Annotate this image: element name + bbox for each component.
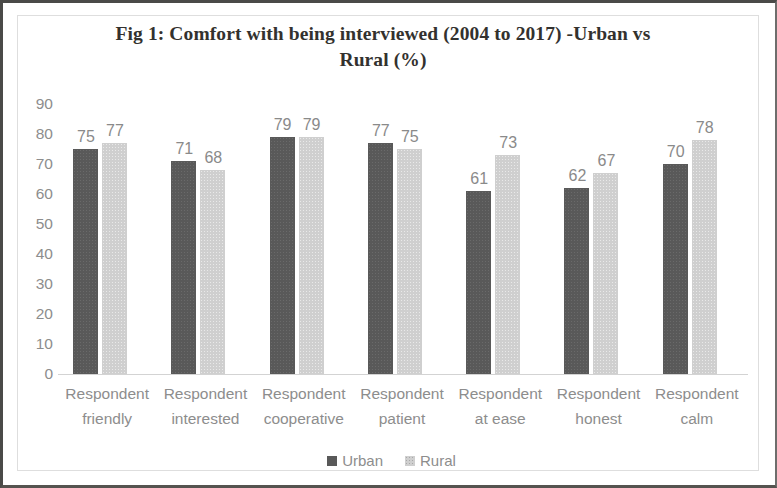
category-label-line-2: friendly — [58, 406, 156, 431]
bar-rural[interactable] — [102, 143, 127, 374]
bar-rural[interactable] — [692, 140, 717, 374]
legend-swatch-rural — [405, 456, 415, 466]
bar-value-label: 61 — [462, 171, 496, 187]
bar-value-label: 70 — [659, 144, 693, 160]
bar-urban[interactable] — [171, 161, 196, 374]
plot-area: 7577716879797775617362677078 — [58, 104, 746, 374]
y-axis-tick-label: 10 — [19, 339, 53, 349]
x-axis-category-label: Respondentfriendly — [58, 381, 156, 431]
bar-urban[interactable] — [368, 143, 393, 374]
y-axis-tick-label: 30 — [19, 279, 53, 289]
chart-title: Fig 1: Comfort with being interviewed (2… — [63, 21, 703, 73]
bar-group: 6267 — [549, 104, 647, 374]
chart-title-line-1: Fig 1: Comfort with being interviewed (2… — [116, 23, 651, 44]
bar-rural[interactable] — [200, 170, 225, 374]
y-axis-tick-label: 40 — [19, 249, 53, 259]
bar-rural[interactable] — [397, 149, 422, 374]
y-axis-tick-label: 60 — [19, 189, 53, 199]
category-label-line-2: patient — [353, 406, 451, 431]
x-axis-category-label: Respondentcooperative — [255, 381, 353, 431]
bar-urban[interactable] — [663, 164, 688, 374]
y-axis-tick-label: 80 — [19, 129, 53, 139]
bar-group: 7168 — [156, 104, 254, 374]
legend-label-rural: Rural — [420, 452, 456, 469]
y-axis-tick-label: 20 — [19, 309, 53, 319]
bar-value-label: 79 — [295, 117, 329, 133]
y-axis-tick-label: 90 — [19, 99, 53, 109]
category-label-line-2: interested — [156, 406, 254, 431]
bar-group: 7979 — [255, 104, 353, 374]
legend-swatch-urban — [327, 456, 337, 466]
bar-urban[interactable] — [270, 137, 295, 374]
legend-label-urban: Urban — [342, 452, 383, 469]
bar-group: 7078 — [648, 104, 746, 374]
category-label-line-1: Respondent — [164, 385, 248, 402]
chart-legend: UrbanRural — [3, 452, 777, 469]
bar-group: 7577 — [58, 104, 156, 374]
bar-value-label: 73 — [491, 135, 525, 151]
x-axis-category-labels: RespondentfriendlyRespondentinterestedRe… — [58, 381, 746, 441]
bar-value-label: 68 — [196, 150, 230, 166]
x-axis-line — [58, 374, 748, 375]
bar-urban[interactable] — [564, 188, 589, 374]
y-axis-tick-label: 50 — [19, 219, 53, 229]
x-axis-category-label: Respondentinterested — [156, 381, 254, 431]
category-label-line-2: calm — [648, 406, 746, 431]
category-label-line-1: Respondent — [458, 385, 542, 402]
bar-value-label: 77 — [98, 123, 132, 139]
category-label-line-1: Respondent — [65, 385, 149, 402]
bar-value-label: 78 — [688, 120, 722, 136]
bar-value-label: 75 — [393, 129, 427, 145]
x-axis-category-label: Respondenthonest — [550, 381, 648, 431]
category-label-line-1: Respondent — [655, 385, 739, 402]
category-label-line-2: honest — [550, 406, 648, 431]
y-axis: 9080706050403020100 — [15, 104, 53, 374]
bar-group: 7775 — [353, 104, 451, 374]
category-label-line-2: at ease — [451, 406, 549, 431]
bar-rural[interactable] — [593, 173, 618, 374]
legend-item-urban[interactable]: Urban — [327, 452, 383, 469]
chart-page: Fig 1: Comfort with being interviewed (2… — [0, 0, 777, 488]
y-axis-tick-label: 70 — [19, 159, 53, 169]
bar-urban[interactable] — [466, 191, 491, 374]
category-label-line-1: Respondent — [557, 385, 641, 402]
x-axis-category-label: Respondentcalm — [648, 381, 746, 431]
category-label-line-2: cooperative — [255, 406, 353, 431]
y-axis-tick-label: 0 — [19, 369, 53, 379]
x-axis-category-label: Respondentpatient — [353, 381, 451, 431]
x-axis-category-label: Respondentat ease — [451, 381, 549, 431]
bar-rural[interactable] — [299, 137, 324, 374]
chart-title-line-2: Rural (%) — [339, 49, 426, 70]
bar-group: 6173 — [451, 104, 549, 374]
bar-value-label: 62 — [560, 168, 594, 184]
category-label-line-1: Respondent — [262, 385, 346, 402]
category-label-line-1: Respondent — [360, 385, 444, 402]
bar-value-label: 67 — [589, 153, 623, 169]
legend-item-rural[interactable]: Rural — [405, 452, 456, 469]
bar-rural[interactable] — [495, 155, 520, 374]
bar-urban[interactable] — [73, 149, 98, 374]
